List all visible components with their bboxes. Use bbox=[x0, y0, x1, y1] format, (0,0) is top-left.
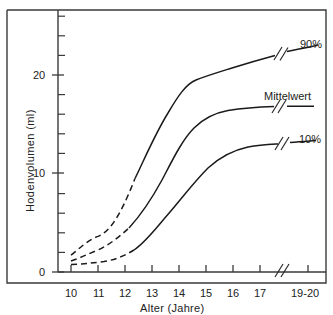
y-tick-label-20: 20 bbox=[33, 69, 45, 81]
x-axis-ticks bbox=[71, 265, 308, 272]
plot-outer-frame bbox=[7, 10, 326, 283]
x-tick-label-10: 10 bbox=[65, 287, 77, 299]
curve-mittelwert-dashed bbox=[71, 228, 129, 261]
curve-90-solid bbox=[135, 56, 275, 179]
x-tick-label-17: 17 bbox=[254, 287, 266, 299]
x-tick-label-16: 16 bbox=[227, 287, 239, 299]
curve-label-mittelwert: Mittelwert bbox=[264, 90, 311, 102]
chart-canvas bbox=[0, 0, 333, 315]
x-tick-label-12: 12 bbox=[119, 287, 131, 299]
x-axis-break-icon bbox=[275, 264, 289, 277]
x-axis-label: Alter (Jahre) bbox=[140, 302, 204, 314]
curve-mittelwert-solid bbox=[129, 107, 274, 229]
x-tick-label-15: 15 bbox=[200, 287, 212, 299]
chart-figure: 0 10 20 Hodenvolumen (ml) 10 11 12 13 14… bbox=[0, 0, 333, 315]
curve-90-dashed bbox=[71, 179, 135, 256]
curve-label-90: 90% bbox=[300, 38, 322, 50]
x-tick-label-13: 13 bbox=[146, 287, 158, 299]
y-axis-label: Hodenvolumen (ml) bbox=[24, 109, 36, 212]
y-axis-minor-ticks bbox=[58, 16, 65, 252]
x-tick-label-19-20: 19-20 bbox=[291, 287, 319, 299]
curve-90-break-icon bbox=[274, 47, 288, 61]
x-tick-label-14: 14 bbox=[173, 287, 185, 299]
y-tick-label-0: 0 bbox=[39, 266, 45, 278]
x-tick-label-11: 11 bbox=[93, 287, 104, 299]
curve-10-solid bbox=[134, 144, 278, 250]
curve-label-10: 10% bbox=[299, 133, 321, 145]
